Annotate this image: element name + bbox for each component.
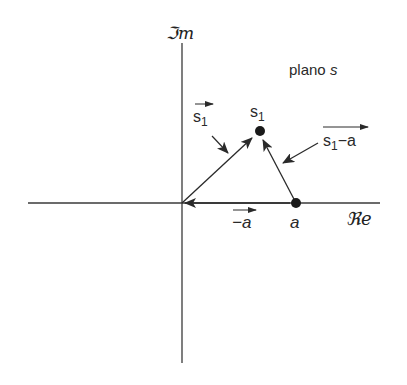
point-a: [291, 198, 301, 208]
point-a-label: a: [290, 213, 299, 232]
complex-plane-diagram: ℑm ℜe plano s s1 a s1 s1−a: [0, 0, 407, 385]
point-s1: [255, 126, 265, 136]
vector-minus-a-label: −a: [232, 213, 251, 232]
vector-s1-minus-a-label: s1−a: [323, 132, 356, 153]
plane-label: plano s: [289, 61, 338, 78]
vector-s1-label: s1: [193, 108, 208, 129]
vector-s1-pointer: [212, 136, 228, 153]
imaginary-axis-label: ℑm: [166, 23, 194, 43]
vector-s1-minus-a: [263, 140, 296, 203]
diagram-svg: ℑm ℜe plano s s1 a s1 s1−a: [0, 0, 407, 385]
point-s1-label: s1: [250, 103, 265, 124]
real-axis-label: ℜe: [346, 208, 372, 229]
vector-s1: [182, 138, 252, 203]
vector-s1-minus-a-pointer: [283, 143, 318, 163]
